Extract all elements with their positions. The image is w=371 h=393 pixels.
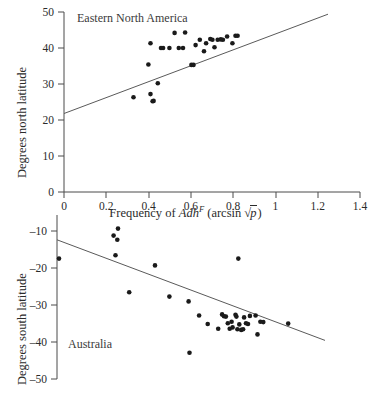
y-tick-label: –10 [29,225,48,237]
x-ticks-top [64,192,360,198]
plot-area-bottom: –10 –20 –30 –40 –50 [0,215,371,393]
data-point [237,322,242,327]
data-point [153,263,158,268]
panel-annotation-top: Eastern North America [77,11,188,25]
data-point [241,327,246,332]
y-tick-label: –30 [29,299,48,311]
regression-line-bottom [57,240,325,341]
data-point [111,233,116,238]
data-point [253,313,258,318]
data-point [224,314,229,319]
y-tick-label: 30 [43,78,55,90]
data-point [246,322,251,327]
y-ticks-bottom [51,231,57,379]
data-point [116,226,121,231]
trendline-top [64,14,328,113]
data-point [148,92,153,97]
y-tick-labels-top: 50 40 30 20 10 0 [43,6,55,198]
trendline-bottom [57,240,325,341]
data-point [113,253,118,258]
data-point [225,34,230,39]
data-point [187,351,192,356]
y-tick-labels-bottom: –10 –20 –30 –40 –50 [29,225,48,385]
data-points-top [131,30,240,103]
x-axis-title-superscript: F [199,204,204,214]
y-tick-label: –40 [29,336,48,348]
panel-annotation-bottom: Australia [68,337,113,351]
data-point [167,46,172,51]
data-point [230,41,235,46]
data-point [193,43,198,48]
data-point [261,320,266,325]
data-point [229,320,234,325]
data-point [146,62,151,67]
two-panel-scatter-figure: 50 40 30 20 10 0 [0,0,371,393]
panel-eastern-north-america: 50 40 30 20 10 0 [0,0,371,200]
y-tick-label: 40 [43,42,55,54]
data-point [183,30,188,35]
data-point [191,63,196,68]
panel-australia: –10 –20 –30 –40 –50 [0,215,371,393]
y-axis-label-bottom: Degrees south latitude [15,273,30,385]
data-point [57,256,62,261]
data-point [286,321,291,326]
data-point [197,313,202,318]
data-point [234,314,239,319]
y-tick-label: –50 [29,373,48,385]
data-points-bottom [57,226,291,355]
y-tick-label: 50 [43,6,55,18]
data-point [167,294,172,299]
data-point [221,37,226,42]
data-point [255,332,260,337]
data-point [156,81,161,86]
data-point [186,299,191,304]
data-point [242,315,247,320]
y-tick-label: 0 [48,186,54,198]
data-point [172,31,177,36]
data-point [205,322,210,327]
plot-area-top: 50 40 30 20 10 0 [0,0,371,215]
y-tick-label: –20 [29,262,48,274]
data-point [212,45,217,50]
data-point [204,41,209,46]
data-point [115,237,120,242]
y-ticks-top [58,12,64,192]
data-point [235,34,240,39]
y-tick-label: 10 [43,150,55,162]
data-point [127,290,132,295]
data-point [150,99,155,104]
data-point [248,314,253,319]
data-point [177,46,182,51]
data-point [216,327,221,332]
data-point [161,46,166,51]
data-point [148,41,153,46]
data-point [236,256,241,261]
data-point [181,46,186,51]
data-point [202,49,207,54]
data-point [131,95,136,100]
y-axis-label-top: Degrees north latitude [15,67,30,178]
data-point [210,37,215,42]
y-tick-label: 20 [43,114,55,126]
data-point [198,37,203,42]
regression-line-top [64,14,328,113]
data-point [230,325,235,330]
